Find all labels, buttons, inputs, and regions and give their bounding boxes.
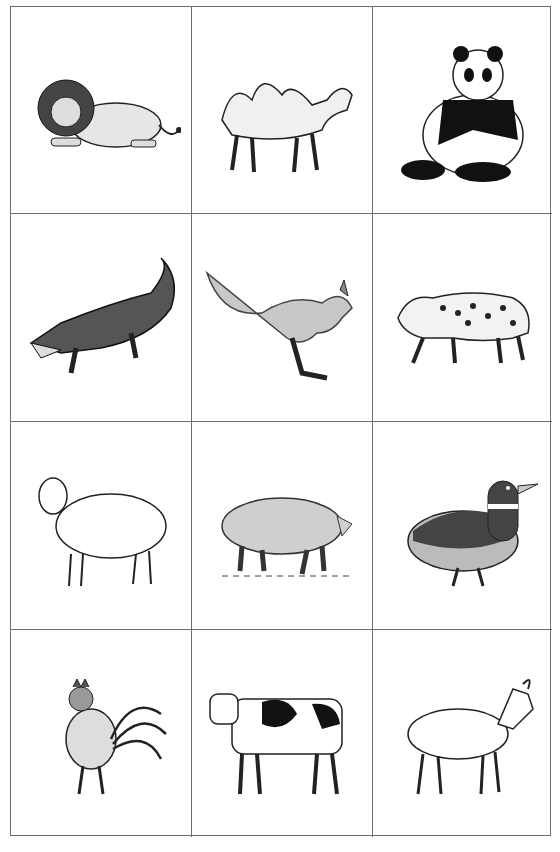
pig-icon: [202, 446, 362, 606]
goat-icon: [383, 654, 543, 814]
card-lion: [11, 7, 192, 214]
card-kangaroo: [192, 214, 373, 422]
sheep-icon: [21, 446, 181, 606]
leopard-icon: [383, 238, 543, 398]
card-leopard: [373, 214, 552, 422]
card-camel: [192, 7, 373, 214]
cow-icon: [202, 654, 362, 814]
lion-icon: [21, 30, 181, 190]
card-panda: [373, 7, 552, 214]
card-rooster: [11, 630, 192, 837]
card-goat: [373, 630, 552, 837]
panda-icon: [383, 30, 543, 190]
card-cow: [192, 630, 373, 837]
card-pig: [192, 422, 373, 630]
duck-icon: [383, 446, 543, 606]
kangaroo-icon: [202, 238, 362, 398]
card-duck: [373, 422, 552, 630]
animal-card-grid: [10, 6, 551, 836]
rooster-icon: [21, 654, 181, 814]
crocodile-icon: [21, 238, 181, 398]
camel-icon: [202, 30, 362, 190]
card-crocodile: [11, 214, 192, 422]
card-sheep: [11, 422, 192, 630]
